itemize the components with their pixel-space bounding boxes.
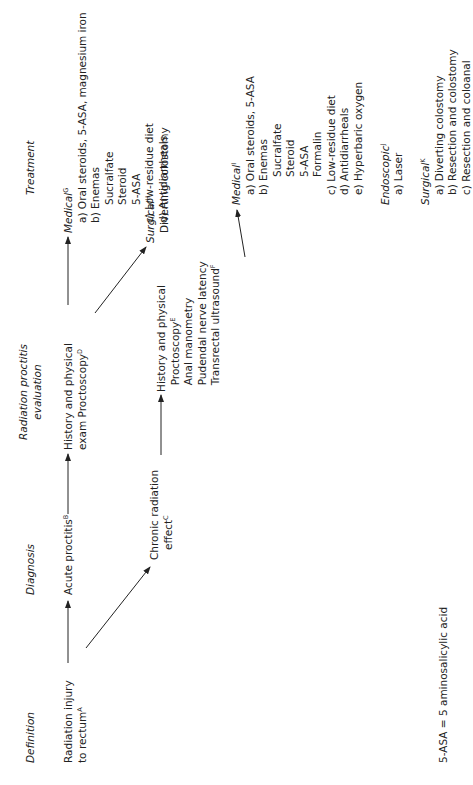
chronic-effect-node: Chronic radiation effectC [148, 470, 175, 560]
header-treatment: Treatment [24, 141, 38, 195]
header-definition: Definition [24, 712, 38, 763]
header-evaluation: Radiation proctitisevaluation [17, 344, 44, 440]
definition-node: Radiation injuryto rectumA [62, 680, 89, 763]
header-diagnosis: Diagnosis [24, 544, 38, 595]
chronic-evaluation-node: History and physical ProctoscopyE Anal m… [155, 261, 223, 392]
acute-evaluation-node: History and physicalexam ProctoscopyD [62, 343, 89, 450]
chronic-medical-treatment: MedicalI a) Oral steroids, 5-ASA b) Enem… [230, 49, 473, 205]
acute-surgical-treatment: SurgicalHDiverting colostomy [144, 127, 171, 243]
footnote: 5-ASA = 5 aminosalicylic acid [437, 607, 451, 763]
acute-proctitis-node: Acute proctitisB [62, 515, 76, 595]
